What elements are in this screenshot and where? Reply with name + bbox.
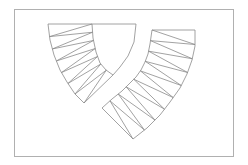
left-cap-arc	[113, 24, 136, 75]
left-mesh-rung	[52, 40, 93, 49]
left-mesh-rung	[75, 70, 106, 94]
left-mesh-diagonal	[68, 56, 98, 83]
left-mesh-rung	[68, 64, 101, 83]
left-bottom-edge	[84, 75, 113, 103]
left-mesh-diagonal	[61, 49, 95, 73]
left-mesh-diagonal	[84, 70, 106, 103]
right-mesh-rung	[110, 101, 144, 130]
right-mesh-diagonal	[118, 94, 144, 130]
right-inner-arc	[102, 30, 152, 108]
mesh-diagram	[0, 0, 248, 165]
right-mesh-rung	[118, 94, 155, 120]
right-mesh-strip	[102, 30, 195, 139]
left-mesh-diagonal	[52, 32, 92, 49]
right-mesh-diagonal	[126, 87, 155, 120]
left-mesh-rung	[61, 56, 97, 72]
left-mesh-diagonal	[75, 64, 101, 94]
left-mesh-strip	[48, 24, 136, 103]
right-mesh-rung	[140, 71, 181, 86]
right-mesh-rung	[145, 61, 187, 72]
frame-border	[15, 10, 234, 157]
right-mesh-diagonal	[145, 61, 181, 85]
